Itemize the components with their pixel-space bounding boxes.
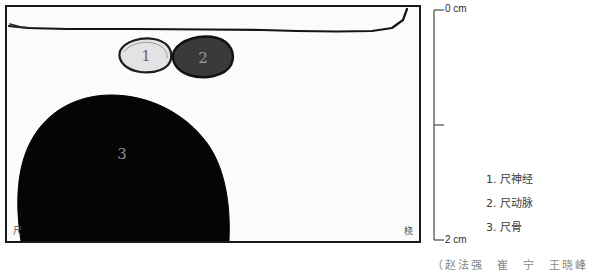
orientation-label-ulnar: 尺	[13, 224, 22, 237]
ultrasound-panel: 3 1 2 尺 桡	[5, 5, 421, 243]
legend-item-1: 1. 尺神经	[486, 168, 594, 192]
scale-label-bottom: 2 cm	[445, 234, 467, 245]
legend-item-2: 2. 尺动脉	[486, 192, 594, 216]
depth-scale: 0 cm 2 cm	[421, 0, 481, 260]
caption-authors: （赵法强 崔 宁 王晓峰	[432, 259, 588, 272]
legend-item-3: 3. 尺骨	[486, 216, 594, 240]
structure-1-number: 1	[141, 47, 151, 65]
ultrasound-drawing: 3 1 2	[7, 7, 419, 241]
orientation-label-radial: 桡	[404, 224, 413, 237]
structure-3-number: 3	[117, 145, 127, 163]
scale-label-top: 0 cm	[445, 3, 467, 14]
legend: 1. 尺神经 2. 尺动脉 3. 尺骨	[486, 168, 594, 240]
depth-scale-svg	[421, 0, 481, 260]
structure-2-number: 2	[198, 49, 208, 67]
figure-root: 3 1 2 尺 桡 0 cm 2 cm 1. 尺神经	[0, 0, 598, 274]
caption-clip: （赵法强 崔 宁 王晓峰	[432, 259, 598, 274]
